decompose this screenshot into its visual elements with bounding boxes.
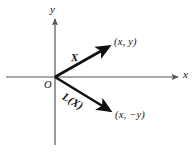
- point-label-x-negy: (x, −y): [115, 110, 145, 121]
- vector-x-label: X: [71, 52, 79, 63]
- origin-label: O: [44, 80, 52, 91]
- y-axis-label: y: [50, 4, 55, 15]
- diagram-svg: [0, 0, 196, 154]
- x-axis-label: x: [183, 69, 188, 80]
- vector-x-arrow: [55, 47, 108, 77]
- figure-canvas: y x O X L(X) (x, y) (x, −y): [0, 0, 196, 154]
- point-label-xy: (x, y): [114, 37, 137, 48]
